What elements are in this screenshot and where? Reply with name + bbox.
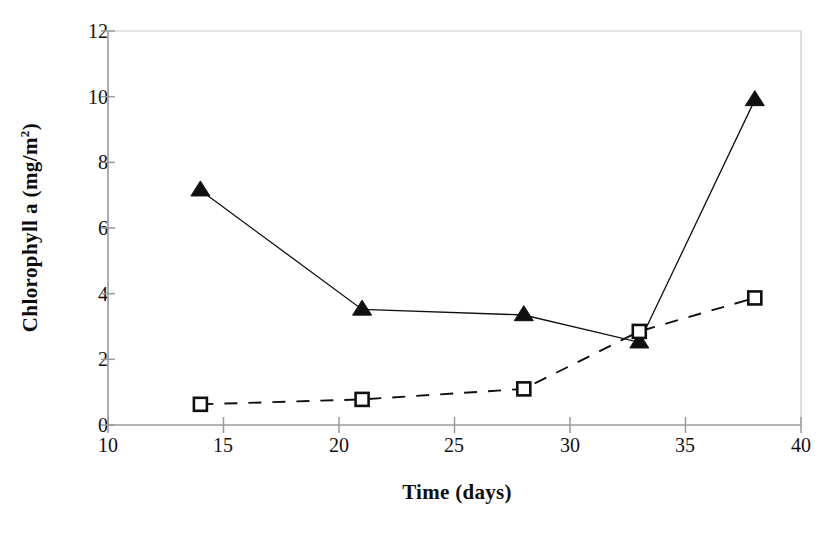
filled-triangle-series-line — [200, 100, 754, 342]
data-point-square-marker — [748, 291, 761, 304]
cut-off-caption — [6, 529, 426, 541]
data-point-triangle-marker — [191, 181, 210, 196]
data-point-square-marker — [633, 325, 646, 338]
data-point-square-marker — [517, 382, 530, 395]
data-point-triangle-marker — [514, 306, 533, 321]
plot-area — [0, 0, 833, 543]
chart-figure: Chlorophyll a (mg/m2) 0 2 4 6 8 10 12 10… — [0, 0, 833, 543]
data-point-square-marker — [194, 398, 207, 411]
data-series-group — [191, 91, 764, 411]
data-point-triangle-marker — [353, 300, 372, 315]
data-point-square-marker — [356, 393, 369, 406]
data-point-triangle-marker — [745, 91, 764, 106]
axes-group — [101, 31, 801, 433]
